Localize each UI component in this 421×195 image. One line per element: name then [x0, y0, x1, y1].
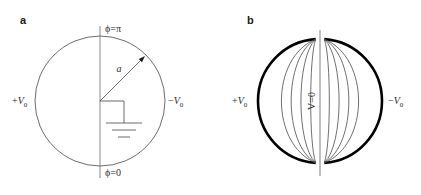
panel-a-phi-zero-label: ϕ=0	[105, 167, 121, 178]
panel-a-letter: a	[20, 14, 27, 26]
panel-a-right-subscript: 0	[180, 101, 184, 109]
figure-container: a ϕ=π ϕ=0 +V0 −V0 a	[0, 0, 421, 195]
panel-a-phi-pi-label: ϕ=π	[105, 23, 121, 34]
figure-background	[0, 0, 421, 195]
panel-a-radius-label: a	[117, 63, 122, 74]
panel-b-letter: b	[247, 14, 254, 26]
figure-svg: a ϕ=π ϕ=0 +V0 −V0 a	[0, 0, 421, 195]
panel-b-right-subscript: 0	[400, 101, 404, 109]
panel-b-v-zero-label: V=0	[306, 92, 317, 110]
panel-b-left-subscript: 0	[244, 101, 248, 109]
panel-a-left-subscript: 0	[24, 101, 28, 109]
